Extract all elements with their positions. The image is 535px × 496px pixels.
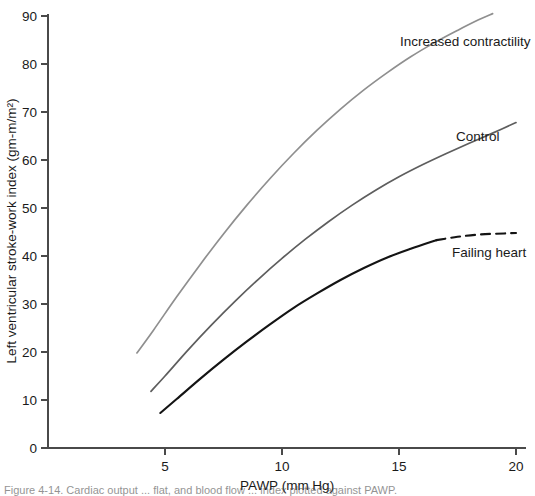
series-label-failing-heart: Failing heart xyxy=(452,245,527,260)
y-tick-label: 50 xyxy=(22,201,37,216)
series-line-increased-contractility xyxy=(137,14,493,353)
series-label-increased-contractility: Increased contractility xyxy=(400,34,531,49)
frank-starling-curve-chart: 0102030405060708090 5101520 Left ventric… xyxy=(0,0,535,496)
x-axis-tick-group: 5101520 xyxy=(161,448,523,474)
figure-root: 0102030405060708090 5101520 Left ventric… xyxy=(0,0,535,496)
series-line-failing-heart-solid xyxy=(160,240,436,413)
y-axis-tick-group: 0102030405060708090 xyxy=(22,9,48,456)
y-tick-label: 60 xyxy=(22,153,37,168)
series-label-group: Increased contractilityControlFailing he… xyxy=(400,34,531,260)
data-series-group xyxy=(137,14,516,413)
axes-group xyxy=(48,14,526,448)
y-tick-label: 40 xyxy=(22,249,37,264)
y-tick-label: 70 xyxy=(22,105,37,120)
y-tick-label: 0 xyxy=(29,441,37,456)
x-tick-label: 5 xyxy=(161,459,169,474)
series-line-failing-heart-dashed xyxy=(436,233,516,240)
y-tick-label: 80 xyxy=(22,57,37,72)
y-axis-title: Left ventricular stroke-work index (gm-m… xyxy=(4,99,19,364)
figure-caption: Figure 4-14. Cardiac output ... flat, an… xyxy=(4,484,397,496)
y-tick-label: 10 xyxy=(22,393,37,408)
series-label-control: Control xyxy=(456,129,500,144)
x-tick-label: 15 xyxy=(391,459,406,474)
y-tick-label: 30 xyxy=(22,297,37,312)
y-tick-label: 90 xyxy=(22,9,37,24)
y-tick-label: 20 xyxy=(22,345,37,360)
axis-spines xyxy=(48,14,526,448)
x-tick-label: 20 xyxy=(508,459,523,474)
x-tick-label: 10 xyxy=(274,459,289,474)
figure-caption-group: Figure 4-14. Cardiac output ... flat, an… xyxy=(4,484,397,496)
